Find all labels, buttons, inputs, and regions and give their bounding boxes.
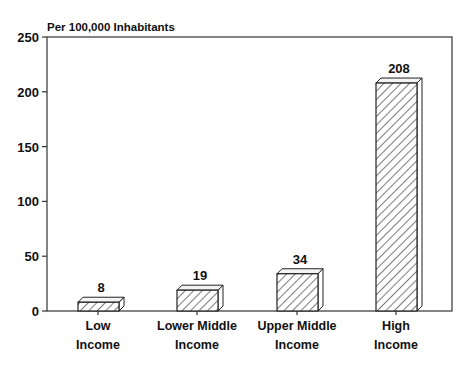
bar-chart: Per 100,000 Inhabitants 050100150200250 … <box>0 0 466 365</box>
y-tick-label: 50 <box>25 249 39 264</box>
y-tick-label: 100 <box>17 194 39 209</box>
x-axis: LowIncomeLower MiddleIncomeUpper MiddleI… <box>76 311 418 352</box>
x-category-label: Low <box>86 319 111 333</box>
x-category-label: Upper Middle <box>257 319 336 333</box>
x-category-label: Income <box>275 338 319 352</box>
bar-value-label: 19 <box>193 268 207 283</box>
y-tick-label: 150 <box>17 140 39 155</box>
bar-value-label: 34 <box>293 252 308 267</box>
bar-value-label: 208 <box>388 61 410 76</box>
bar-low-income: 8 <box>78 280 124 311</box>
y-tick-label: 200 <box>17 85 39 100</box>
y-tick-label: 250 <box>17 30 39 45</box>
bars: 81934208 <box>78 61 422 311</box>
bar-high-income: 208 <box>376 61 422 311</box>
x-category-label: Income <box>76 338 120 352</box>
bar-upper-middle-income: 34 <box>277 252 323 311</box>
x-category-label: Lower Middle <box>157 319 237 333</box>
y-axis: 050100150200250 <box>17 30 47 319</box>
x-category-label: Income <box>374 338 418 352</box>
bar-lower-middle-income: 19 <box>177 268 223 311</box>
unit-label: Per 100,000 Inhabitants <box>47 21 175 33</box>
x-category-label: High <box>382 319 410 333</box>
bar-value-label: 8 <box>97 280 104 295</box>
y-tick-label: 0 <box>32 304 39 319</box>
x-category-label: Income <box>175 338 219 352</box>
